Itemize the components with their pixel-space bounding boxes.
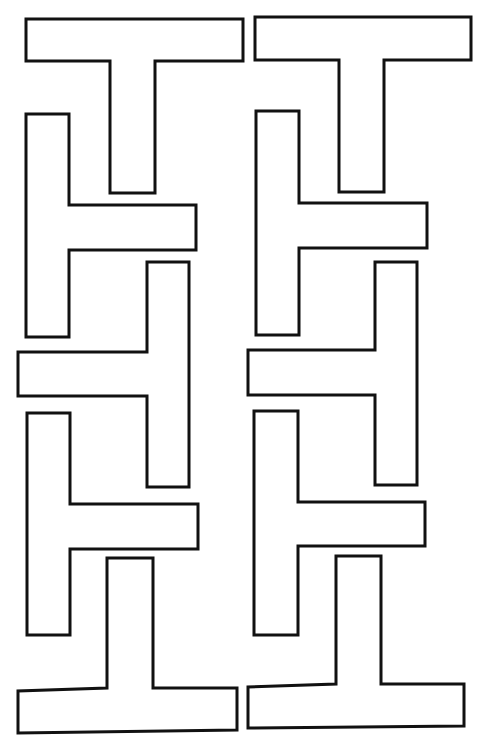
tessellation-canvas — [0, 0, 489, 751]
left-column — [18, 19, 243, 733]
right-column — [248, 17, 471, 728]
